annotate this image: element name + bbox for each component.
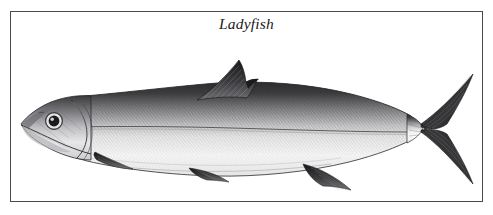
ladyfish-illustration: [11, 12, 482, 201]
illustration-plate: Ladyfish: [0, 0, 493, 215]
